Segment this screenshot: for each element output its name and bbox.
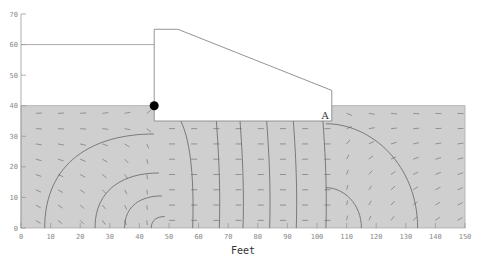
x-tick-label: 150 [459, 233, 472, 241]
x-tick-label: 10 [46, 233, 54, 241]
x-tick-label: 50 [165, 233, 173, 241]
y-tick-label: 60 [10, 41, 18, 49]
x-tick-label: 0 [19, 233, 23, 241]
x-tick-label: 30 [106, 233, 114, 241]
x-tick-label: 20 [76, 233, 84, 241]
x-tick-label: 40 [135, 233, 143, 241]
x-tick-label: 110 [340, 233, 353, 241]
x-tick-label: 90 [283, 233, 291, 241]
y-tick-label: 50 [10, 72, 18, 80]
y-tick-label: 30 [10, 133, 18, 141]
dam-body [154, 29, 332, 121]
x-tick-label: 130 [399, 233, 412, 241]
flow-net-figure: 0102030405060700102030405060708090100110… [0, 0, 480, 259]
y-tick-label: 0 [14, 225, 18, 233]
x-tick-label: 100 [311, 233, 324, 241]
marker-point [150, 101, 159, 110]
x-tick-label: 140 [429, 233, 442, 241]
y-tick-label: 40 [10, 102, 18, 110]
x-tick-label: 60 [194, 233, 202, 241]
point-a-label: A [320, 110, 329, 121]
x-tick-label: 120 [370, 233, 383, 241]
y-tick-label: 10 [10, 194, 18, 202]
x-tick-label: 70 [224, 233, 232, 241]
y-tick-label: 20 [10, 163, 18, 171]
x-tick-label: 80 [254, 233, 262, 241]
y-tick-label: 70 [10, 11, 18, 19]
x-axis-label: Feet [231, 245, 255, 256]
